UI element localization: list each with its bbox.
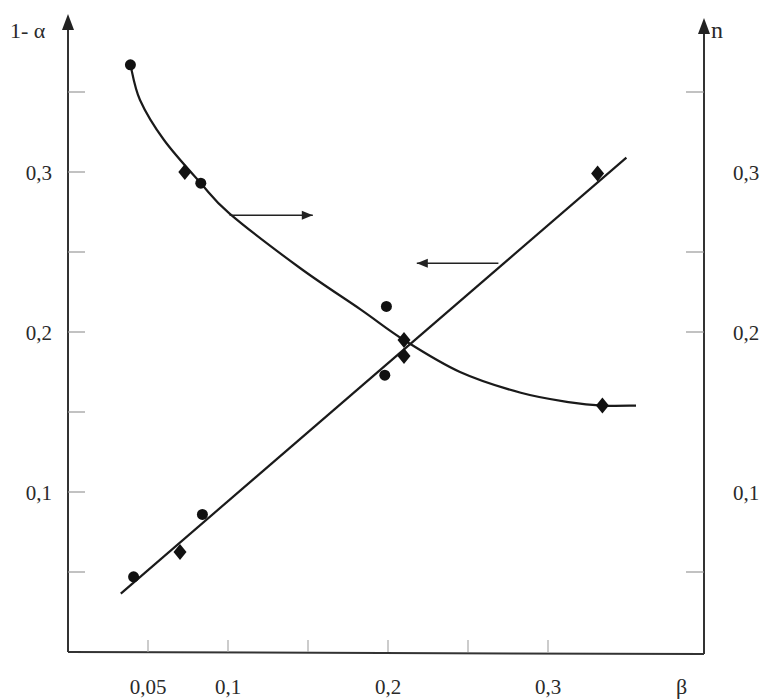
circle-marker	[197, 509, 208, 520]
right-tick-label: 0,1	[733, 481, 759, 505]
fit-line	[121, 158, 627, 594]
circle-marker	[381, 301, 392, 312]
chart-canvas: 0,050,10,20,30,10,20,30,10,20,3 1- α n β	[0, 0, 766, 700]
x-tick-label: 0,2	[375, 675, 401, 699]
diamond-marker	[178, 164, 191, 180]
annotation-arrows	[230, 211, 499, 268]
data-markers	[125, 59, 609, 582]
tick-labels: 0,050,10,20,30,10,20,30,10,20,3	[26, 161, 760, 699]
arrowhead-up-icon	[62, 14, 74, 30]
x-tick-label: 0,3	[535, 675, 561, 699]
circle-marker	[125, 59, 136, 70]
fit-curve	[130, 65, 636, 406]
left-tick-label: 0,2	[26, 321, 52, 345]
axes	[62, 14, 710, 654]
circle-marker	[195, 178, 206, 189]
y-axis-left-label: 1- α	[10, 18, 46, 43]
x-axis-label: β	[676, 674, 687, 699]
left-tick-label: 0,1	[26, 481, 52, 505]
x-tick-label: 0,05	[130, 675, 167, 699]
arrow-right-icon	[302, 211, 313, 220]
x-tick-label: 0,1	[215, 675, 241, 699]
right-tick-label: 0,2	[733, 321, 759, 345]
arrow-left-icon	[417, 259, 428, 268]
arrowhead-up-icon	[698, 18, 710, 34]
y-axis-right-label: n	[711, 17, 723, 43]
diamond-marker	[596, 398, 609, 414]
circle-marker	[128, 571, 139, 582]
circle-marker	[379, 370, 390, 381]
diamond-marker	[398, 348, 411, 364]
x-axis	[68, 652, 704, 654]
left-tick-label: 0,3	[26, 161, 52, 185]
right-tick-label: 0,3	[733, 161, 759, 185]
